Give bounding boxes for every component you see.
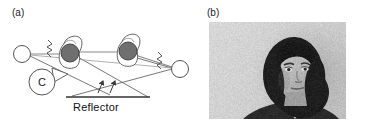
mic-capsule-left	[61, 44, 79, 62]
camera-icon: C	[29, 68, 68, 95]
figure-container: (a)	[0, 0, 366, 130]
camera-label: C	[38, 76, 46, 88]
source-right-circle	[172, 61, 189, 78]
panel-a-label: (a)	[12, 8, 24, 18]
head-left	[59, 36, 82, 68]
panel-b-label: (b)	[207, 8, 219, 18]
panel-a: (a)	[0, 0, 190, 130]
zigzag-right-icon	[157, 52, 162, 69]
panel-b: (b)	[190, 0, 366, 130]
reflection-arrow-2	[110, 81, 115, 93]
reflector-label: Reflector	[73, 101, 119, 113]
source-left-circle	[14, 46, 31, 63]
mic-capsule-right	[119, 42, 137, 60]
portrait-canvas	[209, 22, 346, 119]
head-right	[117, 34, 140, 66]
portrait-photograph	[209, 22, 346, 119]
